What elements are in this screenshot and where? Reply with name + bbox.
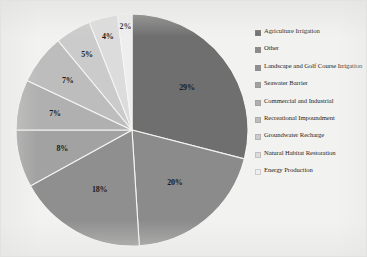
legend-item-label: Landscape and Golf Course Irrigation: [264, 62, 362, 70]
legend-swatch-icon: [255, 134, 261, 140]
legend-swatch-icon: [255, 82, 261, 88]
legend-item[interactable]: Agriculture Irrigation: [255, 27, 365, 36]
legend-swatch-icon: [255, 152, 261, 158]
legend-swatch-icon: [255, 30, 261, 36]
legend-item[interactable]: Groundwater Recharge: [255, 131, 365, 140]
pie-slice-value-label: 7%: [62, 76, 74, 85]
legend-swatch-icon: [255, 169, 261, 175]
legend-swatch-icon: [255, 117, 261, 123]
legend-item-label: Other: [264, 44, 279, 52]
pie-slice-value-label: 7%: [49, 108, 61, 117]
legend-item[interactable]: Seawater Barrier: [255, 79, 365, 88]
legend-item-label: Commercial and Industrial: [264, 97, 333, 105]
legend-item-label: Groundwater Recharge: [264, 131, 324, 139]
pie-slice-value-label: 5%: [81, 50, 93, 59]
pie-svg: [15, 13, 249, 248]
legend-item[interactable]: Other: [255, 44, 365, 53]
legend-item-label: Energy Production: [264, 166, 313, 174]
pie-slice-value-label: 4%: [102, 31, 114, 40]
pie-chart-figure: 29%20%18%8%7%7%5%4%2% Agriculture Irriga…: [0, 0, 367, 257]
legend-item[interactable]: Commercial and Industrial: [255, 97, 365, 106]
legend-item[interactable]: Recreational Impoundment: [255, 114, 365, 123]
legend-swatch-icon: [255, 65, 261, 71]
legend-swatch-icon: [255, 100, 261, 106]
pie-slice-value-label: 18%: [92, 185, 107, 194]
legend-item[interactable]: Natural Habitat Restoration: [255, 149, 365, 158]
pie-slice-value-label: 20%: [167, 177, 182, 186]
pie-slice-value-label: 8%: [56, 143, 68, 152]
legend-item[interactable]: Energy Production: [255, 166, 365, 175]
legend-item-label: Seawater Barrier: [264, 79, 308, 87]
pie-slice-value-label: 2%: [120, 21, 132, 30]
pie-plot-area: 29%20%18%8%7%7%5%4%2%: [15, 13, 249, 248]
legend-swatch-icon: [255, 47, 261, 53]
legend-item[interactable]: Landscape and Golf Course Irrigation: [255, 62, 365, 71]
chart-legend: Agriculture IrrigationOtherLandscape and…: [255, 27, 365, 184]
legend-item-label: Agriculture Irrigation: [264, 27, 320, 35]
pie-slice-value-label: 29%: [179, 83, 194, 92]
legend-item-label: Recreational Impoundment: [264, 114, 335, 122]
legend-item-label: Natural Habitat Restoration: [264, 149, 336, 157]
